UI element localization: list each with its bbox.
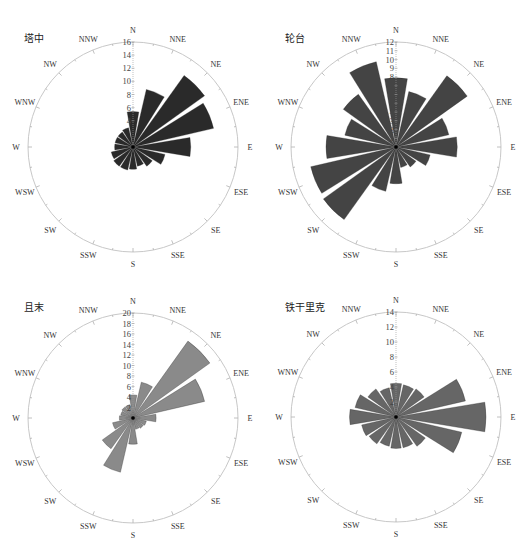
direction-label: ESE: [497, 188, 511, 197]
direction-label: S: [131, 260, 135, 269]
wind-rose-plot: NNNENEENEEESESESSESSSWSWWSWWWNWNWNNW1234…: [263, 0, 527, 278]
radial-tick-label: 12: [123, 63, 132, 73]
radial-tick-label: 8: [127, 90, 131, 100]
radial-tick-label: 9: [390, 63, 394, 73]
radial-tick-label: 2: [127, 403, 131, 413]
wind-rose-tieganlike: 铁干里克 NNNENEENEEESESESSESSSWSWWSWWWNWNWNN…: [263, 270, 527, 548]
direction-label: NNW: [342, 305, 362, 314]
direction-label: SE: [211, 226, 220, 235]
direction-label: NNE: [433, 35, 450, 44]
direction-label: NNW: [79, 306, 99, 315]
direction-label: W: [12, 414, 20, 423]
direction-label: WSW: [15, 188, 35, 197]
wind-rose-luntai: 轮台 NNNENEENEEESESESSESSSWSWWSWWWNWNWNNW1…: [263, 0, 527, 278]
radial-tick-label: 6: [127, 382, 131, 392]
radial-tick-label: 11: [386, 46, 394, 56]
radial-tick-label: 7: [390, 81, 394, 91]
direction-label: ENE: [496, 368, 512, 377]
direction-label: SSW: [80, 251, 97, 260]
radial-tick-label: 12: [386, 37, 395, 47]
direction-label: NNW: [79, 35, 99, 44]
direction-label: NE: [210, 331, 221, 340]
direction-label: SSW: [80, 522, 97, 531]
direction-label: SE: [211, 497, 220, 506]
radial-tick-label: 1: [390, 133, 394, 143]
direction-label: W: [12, 143, 20, 152]
radial-tick-label: 6: [127, 103, 131, 113]
radial-tick-label: 8: [127, 371, 131, 381]
direction-label: N: [130, 297, 136, 306]
wind-rose-plot: NNNENEENEEESESESSESSSWSWWSWWWNWNWNNW2468…: [0, 271, 264, 549]
radial-tick-label: 18: [123, 319, 132, 329]
direction-label: NW: [307, 330, 321, 339]
direction-label: NW: [44, 60, 58, 69]
direction-label: NE: [473, 330, 484, 339]
direction-label: NNE: [170, 35, 187, 44]
direction-label: NNE: [433, 305, 450, 314]
wind-rose-plot: NNNENEENEEESESESSESSSWSWWSWWWNWNWNNW4681…: [0, 0, 264, 278]
direction-label: WNW: [14, 98, 35, 107]
direction-label: SE: [474, 226, 483, 235]
radial-tick-label: 6: [390, 90, 394, 100]
direction-label: WSW: [278, 458, 298, 467]
direction-label: N: [393, 296, 399, 305]
direction-label: SW: [44, 226, 56, 235]
radial-tick-label: 2: [390, 397, 394, 407]
direction-label: ESE: [497, 458, 511, 467]
direction-label: W: [275, 413, 283, 422]
direction-label: ENE: [233, 98, 249, 107]
direction-label: ENE: [496, 98, 512, 107]
direction-label: WSW: [278, 188, 298, 197]
radial-tick-label: 5: [390, 98, 394, 108]
radial-tick-label: 10: [386, 55, 395, 65]
radial-tick-label: 10: [123, 361, 132, 371]
direction-label: S: [131, 531, 135, 540]
direction-label: ENE: [233, 369, 249, 378]
direction-label: NNW: [342, 35, 362, 44]
wind-rose-plot: NNNENEENEEESESESSESSSWSWWSWWWNWNWNNW2468…: [263, 270, 527, 548]
direction-label: E: [511, 143, 516, 152]
direction-label: ESE: [234, 188, 248, 197]
radial-tick-label: 14: [123, 340, 132, 350]
direction-label: WNW: [277, 368, 298, 377]
radial-tick-label: 8: [390, 72, 394, 82]
direction-label: NW: [307, 60, 321, 69]
direction-label: NW: [44, 331, 58, 340]
radial-tick-label: 20: [123, 308, 132, 318]
radial-tick-label: 10: [386, 337, 395, 347]
direction-label: SSE: [171, 251, 185, 260]
direction-label: SE: [474, 496, 483, 505]
direction-label: SW: [307, 496, 319, 505]
direction-label: N: [393, 26, 399, 35]
direction-label: SW: [307, 226, 319, 235]
direction-label: SSE: [434, 521, 448, 530]
direction-label: WNW: [14, 369, 35, 378]
direction-label: WSW: [15, 459, 35, 468]
wind-rose-qiemo: 且末 NNNENEENEEESESESSESSSWSWWSWWWNWNWNNW2…: [0, 271, 264, 549]
direction-label: NE: [473, 60, 484, 69]
direction-label: SW: [44, 497, 56, 506]
radial-tick-label: 14: [386, 307, 395, 317]
direction-label: E: [248, 414, 253, 423]
direction-label: WNW: [277, 98, 298, 107]
direction-label: SSE: [171, 522, 185, 531]
radial-tick-label: 14: [123, 50, 132, 60]
direction-label: S: [394, 530, 398, 539]
direction-label: NE: [210, 60, 221, 69]
direction-label: N: [130, 26, 136, 35]
radial-tick-label: 6: [390, 367, 394, 377]
direction-label: E: [248, 143, 253, 152]
direction-label: W: [275, 143, 283, 152]
wind-rose-tazhong: 塔中 NNNENEENEEESESESSESSSWSWWSWWWNWNWNNW4…: [0, 0, 264, 278]
direction-label: SSE: [434, 251, 448, 260]
radial-tick-label: 16: [123, 37, 132, 47]
radial-tick-label: 12: [123, 350, 132, 360]
direction-label: SSW: [343, 521, 360, 530]
radial-tick-label: 12: [386, 322, 395, 332]
radial-tick-label: 10: [123, 76, 132, 86]
direction-label: E: [511, 413, 516, 422]
radial-tick-label: 16: [123, 329, 132, 339]
direction-label: ESE: [234, 459, 248, 468]
radial-tick-label: 8: [390, 352, 394, 362]
direction-label: S: [394, 260, 398, 269]
